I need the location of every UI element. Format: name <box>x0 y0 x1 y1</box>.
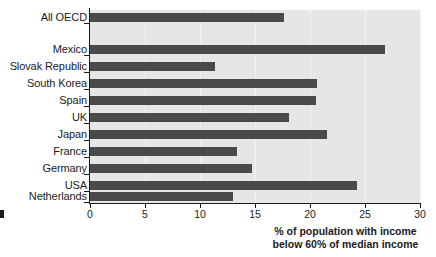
category-tick <box>84 89 89 90</box>
category-label: France <box>53 146 87 157</box>
category-label: UK <box>72 112 87 123</box>
x-tick-label: 0 <box>87 209 93 220</box>
category-label: Mexico <box>53 44 87 55</box>
category-tick <box>84 72 89 73</box>
category-label: Spain <box>59 95 87 106</box>
category-label: Slovak Republic <box>10 61 87 72</box>
x-axis-title: % of population with income below 60% of… <box>255 225 436 251</box>
x-tick-label: 20 <box>304 209 316 220</box>
category-label: All OECD <box>41 12 87 23</box>
x-tick-label: 10 <box>194 209 206 220</box>
category-label: Netherlands <box>29 191 87 202</box>
category-tick <box>84 157 89 158</box>
category-tick <box>84 202 89 203</box>
category-tick <box>84 55 89 56</box>
x-tick-label: 30 <box>414 209 426 220</box>
page-edge-mark <box>0 210 4 218</box>
category-tick <box>84 140 89 141</box>
category-tick <box>84 23 89 24</box>
x-tick-label: 15 <box>249 209 261 220</box>
x-tick-label: 5 <box>142 209 148 220</box>
category-tick <box>84 123 89 124</box>
category-label: Germany <box>42 163 87 174</box>
category-tick <box>84 174 89 175</box>
category-tick <box>84 106 89 107</box>
category-label: Japan <box>58 129 87 140</box>
category-label: South Korea <box>27 78 87 89</box>
x-tick-label: 25 <box>359 209 371 220</box>
bar-chart: All OECDMexicoSlovak RepublicSouth Korea… <box>0 0 436 257</box>
